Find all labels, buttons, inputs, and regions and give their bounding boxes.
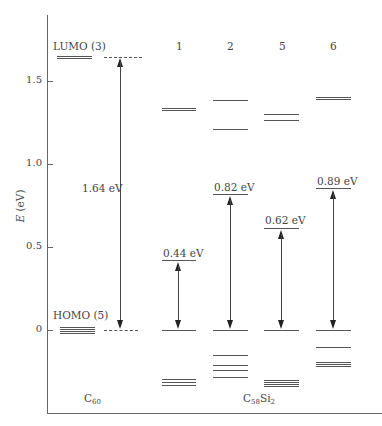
col5-level (264, 380, 299, 381)
col1-level (162, 379, 196, 380)
col2-level (213, 355, 248, 356)
tick-label-0-5: 0.5 (12, 240, 42, 251)
col5-gap-arrow (281, 234, 282, 326)
col6-gap-arrow (333, 194, 334, 326)
tick-label-0: 0 (12, 323, 42, 334)
c58si2-subscript-2: 2 (271, 398, 275, 406)
col1-level (162, 110, 196, 111)
c60-base: C (84, 392, 92, 404)
c58si2-base-c: C (243, 392, 251, 404)
column-2-label: 2 (227, 40, 234, 52)
col5-level (264, 114, 299, 115)
c60-subscript: 60 (92, 398, 101, 406)
col2-level (213, 370, 248, 371)
column-6-gap-label: 0.89 eV (317, 175, 358, 187)
column-6-label: 6 (330, 40, 337, 52)
col5-level (264, 384, 299, 385)
col2-level (213, 100, 248, 101)
lumo-label: LUMO (3) (53, 40, 106, 52)
col6-homo-level (316, 330, 351, 331)
col5-level (264, 386, 299, 387)
col6-level (316, 99, 351, 100)
arrow-down-icon (175, 320, 181, 329)
y-axis-label-symbol: E (14, 215, 26, 223)
c60-gap-label: 1.64 eV (82, 182, 123, 194)
arrow-down-icon (227, 320, 233, 329)
col6-level (316, 347, 351, 348)
col6-level (316, 364, 351, 365)
c60-gap-arrow (120, 62, 121, 326)
column-1-label: 1 (176, 40, 183, 52)
col2-level (213, 377, 248, 378)
y-axis-label: E (eV) (14, 186, 26, 226)
col2-homo-level (213, 330, 248, 331)
tick-1-0 (47, 164, 53, 165)
tick-0-5 (47, 247, 53, 248)
col5-lumo-level (264, 228, 299, 229)
c60-molecule-label: C60 (84, 392, 101, 406)
tick-label-1-0: 1.0 (12, 157, 42, 168)
c60-homo-level (60, 327, 95, 328)
c58si2-molecule-label: C58Si2 (243, 392, 275, 406)
col6-level (316, 362, 351, 363)
col2-gap-arrow (230, 200, 231, 326)
col5-homo-level (264, 330, 299, 331)
c58si2-subscript-58: 58 (251, 398, 260, 406)
c60-lumo-level (57, 58, 92, 59)
column-5-label: 5 (279, 40, 286, 52)
col1-lumo-level (162, 260, 196, 261)
col1-gap-arrow (178, 266, 179, 326)
col1-level (162, 382, 196, 383)
c60-homo-dashed-ref (104, 330, 138, 331)
tick-label-1-5: 1.5 (12, 74, 42, 85)
homo-label: HOMO (5) (53, 309, 108, 321)
tick-0 (47, 330, 53, 331)
y-axis-label-unit: (eV) (14, 190, 26, 215)
col5-level (264, 120, 299, 121)
col6-level (316, 97, 351, 98)
tick-1-5 (47, 81, 53, 82)
arrow-down-icon (117, 320, 123, 329)
col1-level (162, 108, 196, 109)
col2-level (213, 129, 248, 130)
col6-lumo-level (316, 188, 351, 189)
col6-level (316, 366, 351, 367)
column-2-gap-label: 0.82 eV (214, 181, 255, 193)
col2-lumo-level (213, 194, 248, 195)
col1-level (162, 385, 196, 386)
c60-homo-level (60, 331, 95, 332)
c60-homo-level (60, 329, 95, 330)
c60-lumo-level (57, 56, 92, 57)
c60-homo-level (60, 333, 95, 334)
col2-level (213, 365, 248, 366)
col1-homo-level (162, 330, 196, 331)
c60-lumo-dashed-ref (104, 57, 142, 58)
arrow-down-icon (330, 320, 336, 329)
column-1-gap-label: 0.44 eV (163, 247, 204, 259)
arrow-down-icon (278, 320, 284, 329)
x-axis (47, 413, 382, 414)
y-axis (47, 15, 48, 414)
c58si2-base-si: Si (260, 392, 271, 404)
col5-level (264, 382, 299, 383)
column-5-gap-label: 0.62 eV (265, 214, 306, 226)
